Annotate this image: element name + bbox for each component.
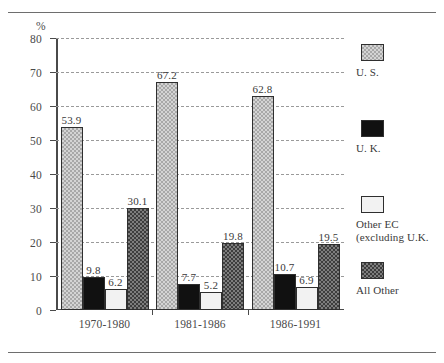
bar-value-label: 7.7 [182, 271, 196, 283]
bar[interactable]: 7.7 [178, 284, 200, 310]
bar-slot: 62.8 [252, 38, 274, 310]
x-axis-tick [248, 310, 249, 315]
bar[interactable]: 6.2 [105, 289, 127, 310]
bar-value-label: 62.8 [252, 83, 272, 95]
bar-value-label: 5.2 [204, 279, 218, 291]
bar-slot: 7.7 [178, 38, 200, 310]
y-axis-tick: 20 [50, 242, 56, 243]
bar-value-label: 6.9 [299, 274, 313, 286]
y-axis-tick-label: 20 [30, 237, 42, 249]
bar-slot: 9.8 [83, 38, 105, 310]
bar-group: 67.27.75.219.8 [153, 38, 247, 310]
y-axis-tick: 30 [50, 208, 56, 209]
bar-group: 53.99.86.230.1 [58, 38, 152, 310]
legend-entry[interactable]: All Other [356, 262, 444, 297]
bar-slot: 19.8 [222, 38, 244, 310]
y-axis-unit-label: % [36, 20, 46, 32]
legend-label: All Other [356, 284, 444, 297]
y-axis-tick-label: 0 [36, 305, 42, 317]
bar-slot: 6.9 [296, 38, 318, 310]
y-axis-tick: 80 [50, 38, 56, 39]
legend-swatch [361, 262, 384, 279]
bar[interactable]: 9.8 [83, 277, 105, 310]
bar[interactable]: 19.8 [222, 243, 244, 310]
bar-value-label: 53.9 [61, 114, 81, 126]
x-axis-category-label: 1970-1980 [79, 318, 131, 330]
bar-slot: 30.1 [127, 38, 149, 310]
legend-label: Other EC(excluding U.K. [356, 218, 444, 243]
legend-entry[interactable]: U. K. [356, 120, 444, 155]
bar-slot: 67.2 [156, 38, 178, 310]
bar-slot: 19.5 [318, 38, 340, 310]
bar-value-label: 10.7 [274, 261, 294, 273]
legend-swatch [361, 44, 384, 61]
legend-label-line: Other EC [356, 218, 444, 231]
legend-label: U. S. [356, 66, 444, 79]
top-rule [8, 12, 436, 13]
bar-slot: 5.2 [200, 38, 222, 310]
bar[interactable]: 6.9 [296, 287, 318, 310]
y-axis-tick: 40 [50, 174, 56, 175]
y-axis-tick: 70 [50, 72, 56, 73]
chart-figure: % 01020304050607080 53.99.86.230.167.27.… [0, 0, 444, 363]
legend-label: U. K. [356, 142, 444, 155]
legend-entry[interactable]: U. S. [356, 44, 444, 79]
bar[interactable]: 30.1 [127, 208, 149, 310]
y-axis-tick-label: 60 [30, 101, 42, 113]
y-axis-tick-label: 80 [30, 33, 42, 45]
x-axis-tick [152, 310, 153, 315]
y-axis-tick: 10 [50, 276, 56, 277]
bar-value-label: 19.5 [318, 231, 338, 243]
y-axis-tick: 0 [50, 310, 56, 311]
bar[interactable]: 62.8 [252, 96, 274, 310]
legend-swatch [361, 120, 384, 137]
bar[interactable]: 53.9 [61, 127, 83, 310]
legend-swatch [361, 196, 384, 213]
bottom-rule [8, 352, 436, 353]
bar-group-inner: 53.99.86.230.1 [58, 38, 152, 310]
y-axis-tick: 60 [50, 106, 56, 107]
bar[interactable]: 67.2 [156, 82, 178, 310]
plot-area: 01020304050607080 53.99.86.230.167.27.75… [56, 38, 344, 310]
bar-value-label: 9.8 [86, 264, 100, 276]
y-axis-tick-label: 70 [30, 67, 42, 79]
bar-group-inner: 67.27.75.219.8 [153, 38, 247, 310]
bar-slot: 10.7 [274, 38, 296, 310]
x-axis-category-label: 1981-1986 [174, 318, 226, 330]
bar-group-inner: 62.810.76.919.5 [249, 38, 343, 310]
bar-slot: 6.2 [105, 38, 127, 310]
bar[interactable]: 19.5 [318, 244, 340, 310]
y-axis-tick-label: 50 [30, 135, 42, 147]
bar-group: 62.810.76.919.5 [249, 38, 343, 310]
bar-value-label: 30.1 [127, 195, 147, 207]
y-axis-tick-label: 40 [30, 169, 42, 181]
y-axis-tick-label: 10 [30, 271, 42, 283]
bar-value-label: 19.8 [223, 230, 243, 242]
bar-slot: 53.9 [61, 38, 83, 310]
legend-entry[interactable]: Other EC(excluding U.K. [356, 196, 444, 243]
y-axis-tick-label: 30 [30, 203, 42, 215]
bar[interactable]: 5.2 [200, 292, 222, 310]
bar-value-label: 67.2 [157, 69, 177, 81]
y-axis-tick: 50 [50, 140, 56, 141]
x-axis-category-label: 1986-1991 [270, 318, 322, 330]
chart-legend: U. S.U. K.Other EC(excluding U.K.All Oth… [356, 38, 444, 310]
bar-value-label: 6.2 [108, 276, 122, 288]
bar[interactable]: 10.7 [274, 274, 296, 310]
legend-label-line: (excluding U.K. [356, 231, 444, 244]
